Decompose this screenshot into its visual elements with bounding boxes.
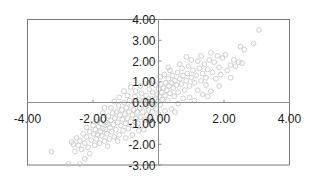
x-tick-label: 2.00: [212, 112, 236, 126]
scatter-chart: -4.00-2.000.002.004.00 4.003.002.001.000…: [0, 0, 317, 178]
y-tick-label: 4.00: [132, 13, 156, 27]
y-tick-label: 0.00: [132, 96, 156, 110]
y-tick-label: 2.00: [132, 55, 156, 69]
y-tick-label: 3.00: [132, 34, 156, 48]
x-tick-label: 4.00: [278, 112, 302, 126]
y-tick-label: -1.00: [128, 117, 156, 131]
y-tick-label: -3.00: [128, 159, 156, 173]
x-tick-label: -4.00: [14, 112, 42, 126]
y-tick-label: -2.00: [128, 138, 156, 152]
y-tick-label: 1.00: [132, 75, 156, 89]
x-tick-label: -2.00: [79, 112, 107, 126]
